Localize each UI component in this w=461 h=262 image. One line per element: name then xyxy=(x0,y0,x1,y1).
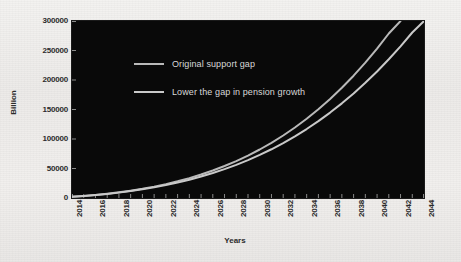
x-tick-label: 2034 xyxy=(310,200,319,217)
y-tick-label: 300000 xyxy=(4,17,68,25)
legend-label: Lower the gap in pension growth xyxy=(172,87,305,97)
x-tick-label: 2026 xyxy=(216,200,225,217)
x-tick-label: 2036 xyxy=(333,200,342,217)
x-tick-label: 2040 xyxy=(380,200,389,217)
y-axis-tick-labels: 050000100000150000200000250000300000 xyxy=(2,21,68,198)
x-axis-tick-labels: 2014201620182020202220242026202820302032… xyxy=(72,200,424,240)
x-tick-label: 2038 xyxy=(357,200,366,217)
x-tick-label: 2028 xyxy=(239,200,248,217)
x-tick-label: 2018 xyxy=(122,200,131,217)
x-tick-label: 2014 xyxy=(75,200,84,217)
x-axis-title: Years xyxy=(190,236,280,245)
line-chart: Billion 05000010000015000020000025000030… xyxy=(0,0,461,262)
x-tick-label: 2042 xyxy=(404,200,413,217)
y-tick-label: 150000 xyxy=(4,106,68,114)
y-tick-label: 250000 xyxy=(4,47,68,55)
y-tick-label: 100000 xyxy=(4,135,68,143)
x-tick-label: 2020 xyxy=(145,200,154,217)
x-tick-label: 2016 xyxy=(98,200,107,217)
x-tick-label: 2030 xyxy=(263,200,272,217)
legend-line-swatch xyxy=(134,91,164,93)
plot-area: Original support gapLower the gap in pen… xyxy=(72,21,424,198)
x-tick-label: 2032 xyxy=(286,200,295,217)
legend-item[interactable]: Lower the gap in pension growth xyxy=(134,87,305,97)
x-tick-label: 2022 xyxy=(169,200,178,217)
legend-label: Original support gap xyxy=(172,59,255,69)
legend-item[interactable]: Original support gap xyxy=(134,59,305,69)
x-tick-label: 2024 xyxy=(192,200,201,217)
chart-legend: Original support gapLower the gap in pen… xyxy=(134,59,305,115)
legend-line-swatch xyxy=(134,63,164,65)
y-tick-label: 200000 xyxy=(4,76,68,84)
y-tick-label: 0 xyxy=(4,194,68,202)
y-tick-label: 50000 xyxy=(4,165,68,173)
x-tick-label: 2044 xyxy=(427,200,436,217)
